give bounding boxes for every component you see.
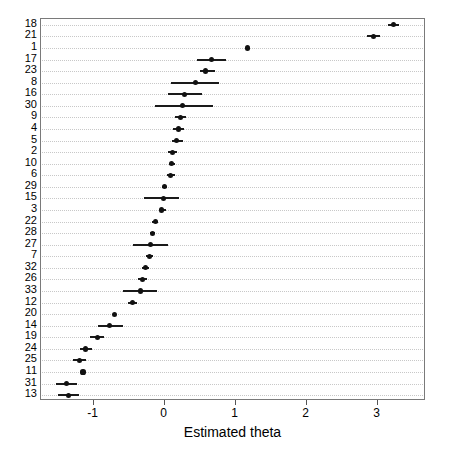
data-point: [161, 196, 166, 201]
y-axis-tick-label: 14: [3, 319, 37, 330]
y-axis-tick-label: 1: [3, 41, 37, 52]
y-axis-tick-label: 9: [3, 110, 37, 121]
y-axis-tick-label: 26: [3, 272, 37, 283]
data-point: [391, 22, 396, 27]
plot-area: [40, 18, 425, 400]
y-axis-tick-label: 15: [3, 191, 37, 202]
y-axis-tick-label: 33: [3, 284, 37, 295]
gridline: [42, 94, 423, 95]
data-point: [64, 381, 69, 386]
data-point: [178, 115, 183, 120]
gridline: [42, 395, 423, 396]
y-axis-tick-label: 5: [3, 134, 37, 145]
x-axis-tick-label: -1: [87, 406, 98, 420]
data-point: [174, 138, 179, 143]
data-point: [193, 80, 198, 85]
y-axis-tick-label: 23: [3, 64, 37, 75]
gridline: [42, 36, 423, 37]
data-point: [140, 277, 145, 282]
gridline: [42, 372, 423, 373]
y-axis-tick-label: 18: [3, 18, 37, 29]
y-axis-tick-label: 28: [3, 226, 37, 237]
y-axis-tick-label: 3: [3, 203, 37, 214]
y-axis-category-labels: 1821117238163094521062915322282773226331…: [0, 18, 37, 400]
gridline: [42, 256, 423, 257]
data-point: [371, 34, 376, 39]
y-axis-tick-label: 4: [3, 122, 37, 133]
y-axis-tick-label: 13: [3, 388, 37, 399]
y-axis-tick-label: 6: [3, 168, 37, 179]
gridline: [42, 198, 423, 199]
y-axis-tick-label: 16: [3, 87, 37, 98]
y-axis-tick-label: 11: [3, 365, 37, 376]
x-axis-tick-mark: [93, 400, 94, 405]
data-point: [209, 57, 214, 62]
gridline: [42, 314, 423, 315]
gridline: [42, 349, 423, 350]
gridline: [42, 48, 423, 49]
y-axis-tick-label: 12: [3, 296, 37, 307]
x-axis-tick-mark: [235, 400, 236, 405]
data-point: [143, 265, 148, 270]
y-axis-tick-label: 10: [3, 157, 37, 168]
gridline: [42, 279, 423, 280]
data-point: [150, 231, 155, 236]
data-point: [138, 288, 143, 293]
x-axis-tick-label: 3: [373, 406, 380, 420]
data-point: [182, 92, 187, 97]
x-axis-tick-label: 2: [302, 406, 309, 420]
y-axis-tick-label: 27: [3, 238, 37, 249]
gridline: [42, 187, 423, 188]
gridline: [42, 291, 423, 292]
y-axis-tick-label: 22: [3, 215, 37, 226]
x-axis-tick-label: 0: [160, 406, 167, 420]
gridline: [42, 60, 423, 61]
data-point: [203, 68, 208, 73]
y-axis-tick-label: 31: [3, 377, 37, 388]
y-axis-tick-label: 8: [3, 76, 37, 87]
gridline: [42, 303, 423, 304]
gridline: [42, 360, 423, 361]
y-axis-tick-label: 17: [3, 53, 37, 64]
gridline: [42, 25, 423, 26]
gridline: [42, 117, 423, 118]
y-axis-tick-label: 7: [3, 249, 37, 260]
gridline: [42, 106, 423, 107]
gridline: [42, 233, 423, 234]
y-axis-tick-label: 2: [3, 145, 37, 156]
gridline: [42, 222, 423, 223]
data-point: [130, 300, 135, 305]
y-axis-tick-label: 20: [3, 307, 37, 318]
gridline: [42, 71, 423, 72]
gridline: [42, 83, 423, 84]
gridline: [42, 152, 423, 153]
data-point: [147, 254, 152, 259]
y-axis-tick-label: 25: [3, 353, 37, 364]
data-point: [180, 103, 185, 108]
data-point: [162, 184, 167, 189]
data-point: [83, 346, 88, 351]
data-point: [112, 312, 117, 317]
x-axis-tick-mark: [164, 400, 165, 405]
x-axis-tick-mark: [306, 400, 307, 405]
x-axis-title: Estimated theta: [40, 424, 425, 440]
data-point: [168, 173, 173, 178]
y-axis-tick-label: 32: [3, 261, 37, 272]
data-point: [169, 161, 174, 166]
y-axis-tick-label: 24: [3, 342, 37, 353]
y-axis-tick-label: 19: [3, 330, 37, 341]
x-axis-tick-label: 1: [231, 406, 238, 420]
gridline: [42, 268, 423, 269]
gridline: [42, 384, 423, 385]
y-axis-tick-label: 29: [3, 180, 37, 191]
data-point: [159, 207, 164, 212]
data-point: [80, 369, 85, 374]
data-point: [77, 358, 82, 363]
y-axis-tick-label: 30: [3, 99, 37, 110]
data-point: [66, 393, 71, 398]
data-point: [153, 219, 158, 224]
gridline: [42, 210, 423, 211]
gridline: [42, 129, 423, 130]
y-axis-tick-label: 21: [3, 29, 37, 40]
data-point: [170, 150, 175, 155]
